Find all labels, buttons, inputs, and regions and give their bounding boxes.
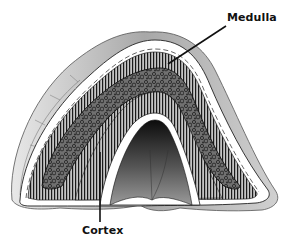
cortex-label: Cortex	[82, 224, 123, 237]
medulla-label: Medulla	[227, 11, 277, 24]
adrenal-gland-illustration	[0, 0, 287, 245]
adrenal-gland-diagram: Medulla Cortex	[0, 0, 287, 245]
